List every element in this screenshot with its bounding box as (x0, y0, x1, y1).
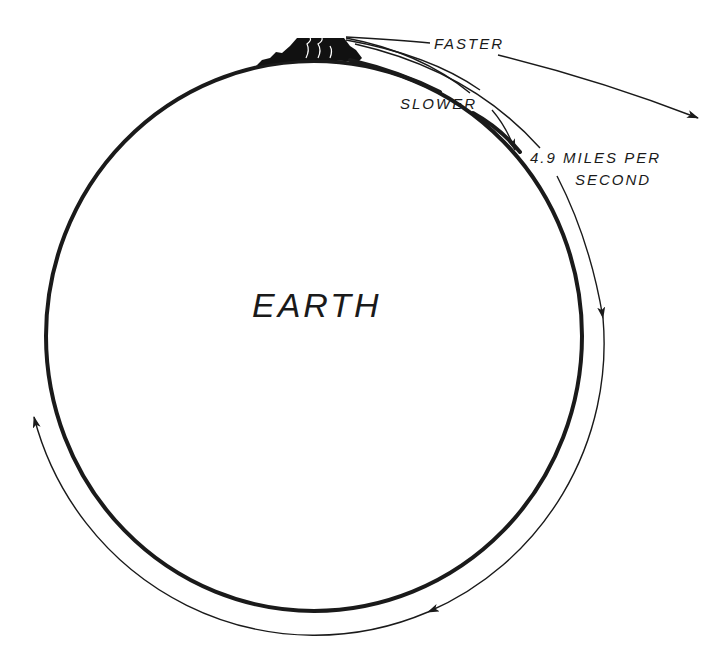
slower-label: SLOWER (400, 96, 477, 111)
earth-label: EARTH (252, 288, 382, 322)
speed-label-line2: SECOND (575, 172, 651, 187)
faster-trajectory (346, 37, 698, 118)
speed-label-line1: 4.9 MILES PER (530, 150, 661, 165)
faster-label: FASTER (434, 36, 504, 51)
orbit-diagram (0, 0, 725, 652)
earth-circle (46, 61, 582, 611)
orbit-path-arrow (34, 176, 604, 635)
